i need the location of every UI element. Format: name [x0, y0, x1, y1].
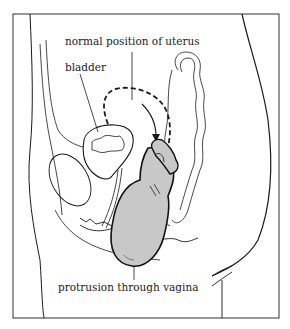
label-normal-position: normal position of uterus [65, 35, 200, 47]
label-protrusion: protrusion through vagina [58, 281, 198, 293]
label-bladder: bladder [65, 61, 106, 73]
leader-bladder [80, 74, 98, 132]
back-outline [212, 14, 271, 276]
rectum-outer [172, 52, 205, 223]
bladder [83, 125, 133, 179]
anatomy-illustration [0, 0, 290, 329]
abdominal-wall-1 [40, 44, 62, 215]
abdomen-outline [29, 14, 44, 318]
uterine-prolapse-diagram: normal position of uterus bladder protru… [0, 0, 290, 329]
movement-arrow [142, 104, 156, 136]
